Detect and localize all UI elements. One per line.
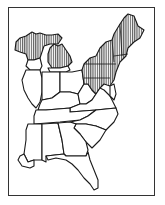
region-florida <box>46 152 98 190</box>
region-illinois <box>22 70 42 108</box>
region-mississippi <box>24 124 42 162</box>
eastern-us-map <box>0 0 165 205</box>
region-delaware <box>110 84 116 100</box>
region-wisconsin <box>26 58 42 70</box>
region-northern-michigan <box>48 44 72 68</box>
